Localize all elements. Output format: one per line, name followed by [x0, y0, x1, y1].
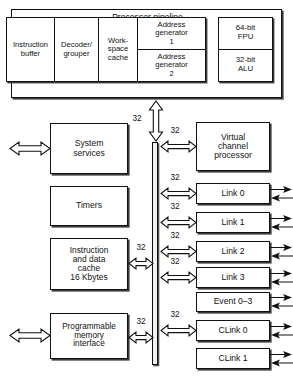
block-link-3: Link 3 [196, 267, 270, 288]
pipeline-stage-workspace-cache: Work-spacecache [99, 18, 138, 81]
block-link-1: Link 1 [196, 212, 270, 233]
bus-arrow-virtual-channel-processor [160, 139, 197, 154]
block-clink-1: CLink 1 [196, 348, 270, 369]
external-io-arrows-link-0 [270, 185, 293, 203]
bus-width-label-link-1: 32 [164, 202, 186, 211]
pipeline-stage-label: Work-spacecache [108, 37, 128, 63]
execution-unit-label: 64-bitFPU [236, 24, 256, 42]
external-io-arrows-event-0-3 [270, 293, 293, 311]
external-io-arrows-link-3 [270, 269, 293, 287]
block-label: Link 3 [221, 273, 246, 282]
execution-unit-label: 32-bitALU [236, 56, 256, 74]
pipeline-stage-label: Decoder/grouper [61, 41, 92, 58]
pipeline-stage-address-generator-1: Addressgenerator1 [138, 18, 205, 50]
block-link-0: Link 0 [196, 183, 270, 204]
bus-width-label-pipeline: 32 [128, 114, 146, 123]
block-label: Timers [75, 201, 103, 210]
bus-arrow-memory-interface [128, 330, 154, 345]
bus-width-label-clink-0: 32 [164, 310, 186, 319]
external-io-arrows-link-2 [270, 243, 293, 261]
bus-arrow-clink-0 [160, 323, 197, 338]
bus-width-label-link-2: 32 [164, 231, 186, 240]
bus-arrow-link-3 [160, 270, 197, 285]
pipeline-stage-label: Instructionbuffer [13, 41, 48, 58]
block-label: CLink 0 [217, 326, 248, 335]
external-io-arrows-clink-1 [270, 350, 293, 368]
block-instruction-and-data-cache: Instructionand datacache16 Kbytes [50, 238, 128, 290]
block-label: Link 1 [221, 218, 246, 227]
bus-arrow-link-1 [160, 215, 197, 230]
bus-arrow-link-0 [160, 186, 197, 201]
block-label: Virtualchannelprocessor [213, 133, 253, 161]
pipeline-stage-label: Addressgenerator2 [155, 53, 188, 79]
block-system-services: Systemservices [50, 123, 128, 174]
bus-width-label-instruction-cache: 32 [130, 243, 152, 252]
bus-width-label-link-0: 32 [164, 173, 186, 182]
block-virtual-channel-processor: Virtualchannelprocessor [196, 122, 270, 171]
execution-units-group: 64-bitFPU 32-bitALU [218, 17, 273, 82]
execution-unit-fpu: 64-bitFPU [219, 18, 272, 50]
address-generator-stack: Addressgenerator1 Addressgenerator2 [138, 18, 205, 81]
block-label: Instructionand datacache16 Kbytes [69, 246, 110, 282]
execution-unit-alu: 32-bitALU [219, 50, 272, 82]
pipeline-stage-instruction-buffer: Instructionbuffer [7, 18, 55, 81]
bus-width-label-virtual-channel-processor: 32 [164, 126, 186, 135]
block-label: CLink 1 [217, 354, 248, 363]
pipeline-stage-decoder-grouper: Decoder/grouper [55, 18, 99, 81]
bus-width-label-link-3: 32 [164, 257, 186, 266]
bus-arrow-pipeline-vertical [148, 100, 164, 142]
block-label: Systemservices [72, 139, 106, 158]
external-io-arrow-memory-interface [9, 327, 51, 344]
block-programmable-memory-interface: Programmablememoryinterface [50, 313, 128, 359]
block-link-2: Link 2 [196, 241, 270, 262]
block-label: Event 0–3 [213, 297, 254, 306]
block-clink-0: CLink 0 [196, 320, 270, 341]
block-timers: Timers [50, 186, 128, 226]
processor-block-diagram: Processor pipeline Instructionbuffer Dec… [0, 0, 293, 381]
pipeline-stage-row: Instructionbuffer Decoder/grouper Work-s… [6, 17, 206, 82]
block-label: Link 2 [221, 247, 246, 256]
external-io-arrow-system-services [9, 140, 51, 157]
block-event-0-3: Event 0–3 [196, 292, 270, 312]
block-label: Programmablememoryinterface [61, 323, 117, 350]
external-io-arrows-link-1 [270, 214, 293, 232]
pipeline-stage-address-generator-2: Addressgenerator2 [138, 50, 205, 82]
external-io-arrows-clink-0 [270, 322, 293, 340]
bus-width-label-memory-interface: 32 [130, 317, 152, 326]
bus-arrow-instruction-cache [128, 256, 154, 271]
pipeline-stage-label: Addressgenerator1 [155, 21, 188, 47]
block-label: Link 0 [221, 189, 246, 198]
